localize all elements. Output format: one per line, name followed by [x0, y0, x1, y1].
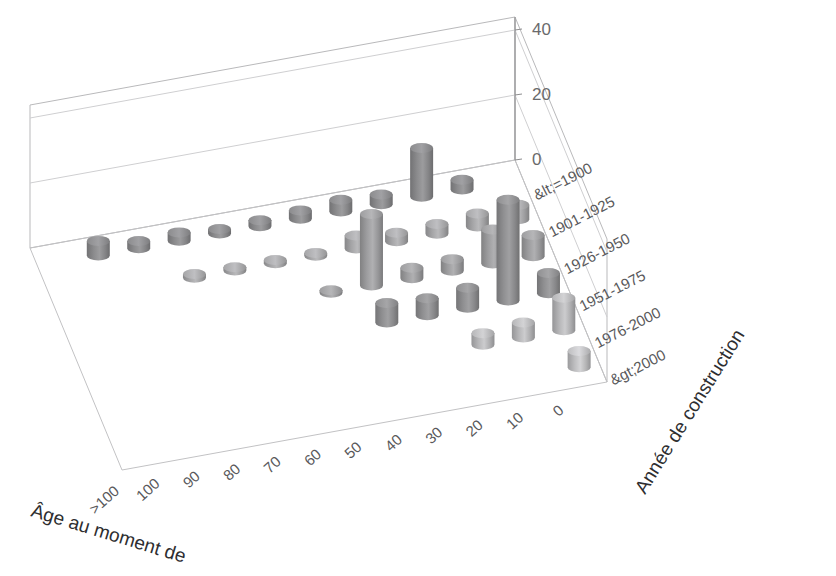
bar-cylinder: [451, 175, 474, 195]
bar-cylinder: [320, 285, 343, 298]
x-tick-label: 60: [301, 445, 325, 469]
bar-cylinder: [168, 227, 191, 245]
bar-cylinder: [375, 298, 398, 328]
bar-cylinder: [410, 143, 433, 202]
bar-cylinder: [456, 283, 479, 313]
x-axis-tick-labels: >1001009080706050403020100: [86, 401, 567, 517]
bar-cylinder: [248, 215, 271, 231]
x-tick-label: 30: [422, 423, 446, 447]
z-tick-label: 0: [532, 150, 541, 169]
x-tick-label: 40: [381, 431, 405, 455]
x-tick-label: 70: [260, 453, 284, 477]
bar-cylinder: [304, 248, 327, 261]
x-tick-label: 10: [503, 409, 527, 433]
bar-cylinder: [183, 269, 206, 283]
bar-cylinder: [87, 236, 110, 261]
z-tick-label: 40: [532, 20, 551, 39]
bar-cylinder: [223, 262, 246, 275]
bar-cylinder: [289, 205, 312, 223]
bar-cylinder: [208, 224, 231, 239]
y-tick-label: 1976-2000: [592, 303, 664, 351]
y-tick-label: 1951-1975: [576, 266, 648, 314]
bar-cylinder: [360, 209, 383, 291]
y-tick-label: &gt;2000: [607, 346, 668, 388]
x-tick-label: 20: [462, 416, 486, 440]
bar-cylinder: [537, 268, 560, 298]
chart-canvas: >1001009080706050403020100 &lt;=19001901…: [0, 0, 836, 576]
bar-cylinder: [552, 293, 575, 336]
x-axis-title: Âge au moment de: [29, 500, 189, 567]
y-tick-label: 1901-1925: [546, 192, 618, 240]
z-axis-tick-labels: 02040: [532, 20, 551, 169]
x-tick-label: 80: [220, 460, 244, 484]
y-tick-label: 1926-1950: [561, 229, 633, 277]
x-tick-label: 100: [133, 475, 163, 504]
x-tick-label: >100: [86, 482, 122, 517]
bar-cylinder: [400, 263, 423, 283]
bar-cylinder: [425, 219, 448, 239]
x-tick-label: 90: [179, 467, 203, 491]
bar-cylinder: [370, 189, 393, 209]
bar-cylinder: [497, 195, 520, 306]
bar-cylinder: [471, 328, 494, 350]
x-tick-label: 50: [341, 438, 365, 462]
z-tick-label: 20: [532, 85, 551, 104]
bar-cylinder: [522, 230, 545, 261]
x-tick-label: 0: [549, 401, 567, 419]
chart-3d-bar-container: >1001009080706050403020100 &lt;=19001901…: [0, 0, 836, 576]
bar-cylinder: [127, 236, 150, 253]
bar-cylinder: [512, 318, 535, 343]
bar-cylinder: [568, 346, 591, 372]
chart-bars: [87, 143, 591, 372]
bar-cylinder: [416, 293, 439, 320]
bar-cylinder: [329, 195, 352, 217]
bar-cylinder: [385, 228, 408, 246]
bar-cylinder: [264, 255, 287, 268]
bar-cylinder: [441, 254, 464, 276]
